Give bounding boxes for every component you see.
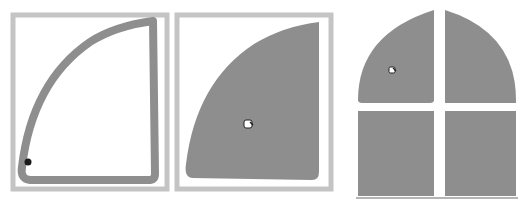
- filled-shape-graphic: [174, 12, 334, 192]
- outline-shape-graphic: [10, 12, 170, 192]
- dot-cursor-icon: [25, 159, 32, 166]
- paint-bucket-cursor-icon: [244, 120, 253, 128]
- pane-top-right: [445, 10, 516, 103]
- paint-bucket-cursor-icon: [389, 67, 396, 73]
- filled-shape: [186, 22, 319, 180]
- window-graphic: [352, 4, 522, 200]
- panel-window-panes: [352, 4, 522, 200]
- panel-outline-shape: [10, 12, 170, 192]
- shape-outline: [22, 21, 155, 180]
- panel-filled-shape: [174, 12, 334, 192]
- pane-bottom-right: [445, 111, 516, 196]
- pane-bottom-left: [358, 111, 434, 196]
- pane-top-left: [358, 10, 434, 103]
